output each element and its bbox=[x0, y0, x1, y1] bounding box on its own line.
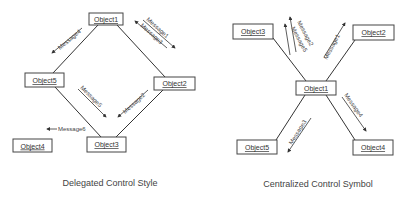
object-box-1[interactable]: Object1 bbox=[89, 13, 123, 25]
svg-text:Message5: Message5 bbox=[79, 84, 103, 108]
message-3: Message3 bbox=[288, 118, 311, 152]
object-box-3[interactable]: Object3 bbox=[233, 24, 273, 39]
object-box-3[interactable]: Object3 bbox=[87, 137, 126, 152]
object-box-5[interactable]: Object5 bbox=[25, 73, 64, 87]
svg-text:Message2: Message2 bbox=[122, 91, 147, 114]
object-label: Object4 bbox=[20, 143, 44, 151]
object-label: Object2 bbox=[361, 29, 385, 37]
caption-delegated: Delegated Control Style bbox=[62, 178, 157, 188]
object-label: Object5 bbox=[245, 144, 269, 152]
object-label: Object3 bbox=[94, 141, 118, 149]
svg-text:Message4: Message4 bbox=[343, 92, 364, 119]
object-box-2[interactable]: Object2 bbox=[353, 25, 394, 40]
object-box-5[interactable]: Object5 bbox=[237, 140, 277, 154]
svg-text:Message3: Message3 bbox=[288, 118, 308, 145]
message-2: Message2 bbox=[118, 90, 148, 117]
object-box-1[interactable]: Object1 bbox=[296, 81, 336, 95]
svg-text:Message4: Message4 bbox=[57, 28, 83, 51]
message-5: Message5 bbox=[78, 84, 106, 117]
centralized-diagram: Object3 Object2 Object1 Object5 Object4 … bbox=[233, 17, 394, 189]
message-4: Message4 bbox=[52, 28, 82, 53]
object-box-4[interactable]: Object4 bbox=[13, 139, 52, 152]
svg-text:Message1: Message1 bbox=[323, 33, 342, 61]
object-label: Object1 bbox=[94, 16, 118, 24]
arrow-icon bbox=[285, 24, 290, 55]
object-label: Object4 bbox=[361, 144, 385, 152]
object-label: Object3 bbox=[241, 28, 265, 36]
delegated-diagram: Object1 Object5 Object2 Object3 Object4 … bbox=[13, 13, 195, 188]
message-6: Message6 bbox=[47, 126, 86, 132]
object-box-2[interactable]: Object2 bbox=[154, 77, 195, 90]
caption-centralized: Centralized Control Symbol bbox=[263, 179, 373, 189]
message-1: Message1 bbox=[323, 23, 345, 60]
svg-text:Message6: Message6 bbox=[58, 126, 86, 132]
object-label: Object5 bbox=[32, 77, 56, 85]
object-box-4[interactable]: Object4 bbox=[353, 140, 393, 155]
object-label: Object1 bbox=[304, 85, 328, 93]
diagram-canvas: Object1 Object5 Object2 Object3 Object4 … bbox=[0, 0, 403, 205]
object-label: Object2 bbox=[162, 80, 186, 88]
